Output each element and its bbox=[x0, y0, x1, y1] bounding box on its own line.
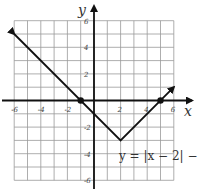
equation-label: y = |x − 2| − 3 bbox=[118, 149, 198, 163]
x-intercept-point bbox=[78, 97, 84, 103]
y-axis-label: y bbox=[77, 2, 87, 18]
x-tick-label: 2 bbox=[117, 106, 123, 114]
y-tick-label: 2 bbox=[83, 71, 89, 79]
x-tick-label: -2 bbox=[64, 106, 71, 114]
x-intercept-point bbox=[157, 97, 163, 103]
y-tick-label: -2 bbox=[84, 124, 91, 132]
y-tick-label: -4 bbox=[84, 151, 91, 159]
y-tick-label: -6 bbox=[84, 177, 91, 185]
x-tick-label: 6 bbox=[171, 106, 176, 114]
x-axis-label: x bbox=[184, 103, 192, 119]
y-tick-label: 4 bbox=[83, 44, 88, 52]
graph: -6-4-2246642-2-4-6 x y y = |x − 2| − 3 bbox=[0, 0, 198, 191]
x-tick-label: -4 bbox=[38, 106, 45, 114]
y-tick-label: 6 bbox=[84, 18, 89, 26]
x-tick-label: -6 bbox=[11, 106, 18, 114]
